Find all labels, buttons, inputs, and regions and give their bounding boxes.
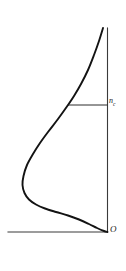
distribution-curve <box>22 28 107 232</box>
threshold-label: nc <box>109 97 115 107</box>
origin-label: O <box>110 225 117 234</box>
threshold-subscript: c <box>113 101 115 107</box>
figure-container: nc O <box>0 0 126 271</box>
plot-canvas <box>0 0 126 271</box>
hatched-region <box>68 28 108 105</box>
